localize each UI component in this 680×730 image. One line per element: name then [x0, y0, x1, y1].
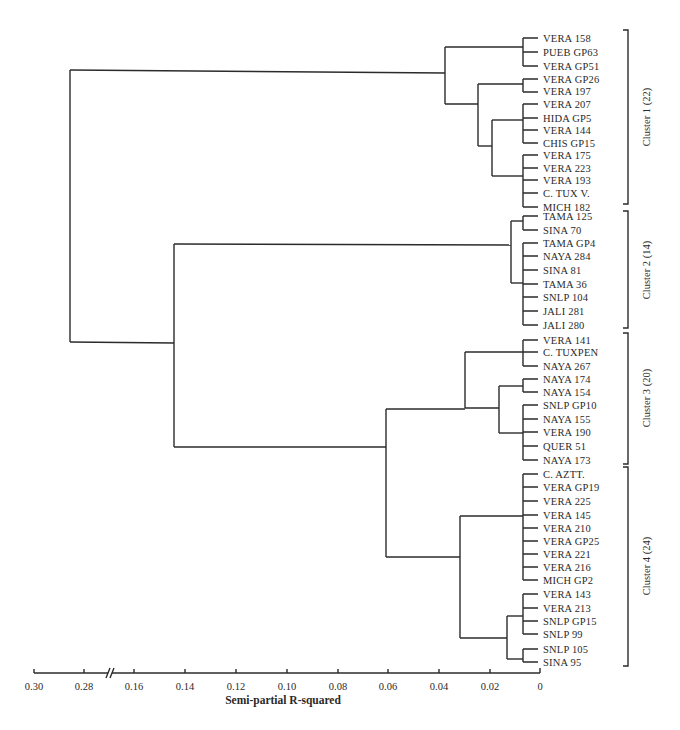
- dendrogram-chart: VERA 158 PUEB GP63 VERA GP51 VERA GP26 V…: [0, 0, 680, 730]
- leaf-label: VERA 193: [543, 175, 591, 186]
- leaf-label: TAMA GP4: [543, 238, 596, 249]
- leaf-label: VERA 216: [543, 562, 591, 573]
- c2-group-a: [523, 216, 538, 230]
- leaf-label: VERA GP51: [543, 61, 599, 72]
- leaf-label: SNLP 105: [543, 644, 588, 655]
- leaf-label: SNLP GP10: [543, 400, 597, 411]
- c2-group-b: [523, 243, 538, 325]
- cluster-2-bracket: [623, 211, 628, 328]
- leaf-label: CHIS GP15: [543, 138, 595, 149]
- leaf-label: VERA 213: [543, 603, 591, 614]
- dendrogram-tree: [70, 38, 538, 662]
- c1-group-d: [523, 155, 538, 207]
- leaf-label: VERA GP19: [543, 482, 599, 493]
- c1-group-a: [523, 38, 538, 66]
- leaf-label: NAYA 154: [543, 387, 591, 398]
- leaf-label: QUER 51: [543, 441, 586, 452]
- leaf-label: VERA 207: [543, 99, 591, 110]
- c4-group-a: [523, 474, 538, 580]
- leaf-label: VERA 175: [543, 150, 591, 161]
- leaf-label: SNLP 104: [543, 292, 589, 303]
- cluster-4-bracket: [623, 467, 628, 666]
- tick-label: 0.30: [25, 681, 43, 692]
- leaf-label: VERA 145: [543, 510, 591, 521]
- leaf-label: VERA 190: [543, 427, 591, 438]
- leaf-label: TAMA 36: [543, 279, 587, 290]
- leaf-label: NAYA 173: [543, 455, 591, 466]
- c4-group-b: [523, 594, 538, 634]
- leaf-label: MICH GP2: [543, 575, 593, 586]
- c3-group-b: [523, 379, 538, 392]
- cluster-1-label: Cluster 1 (22): [641, 87, 653, 146]
- c1-group-b: [523, 79, 538, 92]
- leaf-label: SNLP GP15: [543, 616, 597, 627]
- c2-branch: [174, 244, 511, 245]
- c3-group-a: [523, 340, 538, 366]
- leaf-label: VERA 221: [543, 549, 591, 560]
- leaf-label: SINA 95: [543, 657, 581, 668]
- leaf-label: NAYA 267: [543, 361, 591, 372]
- tick-label: 0.12: [227, 681, 245, 692]
- tick-label: 0.28: [75, 681, 93, 692]
- leaf-label: VERA 143: [543, 589, 591, 600]
- leaf-label: VERA 223: [543, 163, 591, 174]
- c1-group-c: [523, 104, 538, 143]
- cluster-4-label: Cluster 4 (24): [641, 536, 653, 595]
- leaf-label: NAYA 174: [543, 374, 591, 385]
- tick-label: 0.08: [329, 681, 347, 692]
- leaf-label: NAYA 284: [543, 251, 591, 262]
- x-axis-title: Semi-partial R-squared: [225, 694, 341, 707]
- leaf-label: HIDA GP5: [543, 113, 592, 124]
- leaf-label: SINA 70: [543, 225, 581, 236]
- tick-label: 0.04: [430, 681, 449, 692]
- leaf-label: SNLP 99: [543, 629, 583, 640]
- cluster-3-bracket: [623, 333, 628, 464]
- cluster-brackets: Cluster 1 (22) Cluster 2 (14) Cluster 3 …: [623, 30, 653, 666]
- cluster-3-label: Cluster 3 (20): [641, 368, 653, 427]
- tick-label: 0.02: [481, 681, 499, 692]
- leaf-label: JALI 280: [543, 320, 585, 331]
- tick-label: 0: [537, 681, 542, 692]
- c4-group-c: [523, 649, 538, 662]
- leaf-label: TAMA 125: [543, 211, 592, 222]
- leaf-label: VERA GP26: [543, 74, 599, 85]
- tick-label: 0.06: [379, 681, 397, 692]
- root-branch-top: [70, 70, 445, 73]
- leaf-label: VERA GP25: [543, 536, 599, 547]
- leaf-label: VERA 210: [543, 523, 591, 534]
- tick-label: 0.10: [278, 681, 296, 692]
- leaf-label: NAYA 155: [543, 414, 591, 425]
- cluster-1-bracket: [623, 30, 628, 204]
- leaf-label: VERA 144: [543, 125, 592, 136]
- leaf-label: SINA 81: [543, 265, 581, 276]
- leaf-labels: VERA 158 PUEB GP63 VERA GP51 VERA GP26 V…: [543, 33, 599, 668]
- leaf-label: PUEB GP63: [543, 47, 598, 58]
- leaf-label: VERA 225: [543, 496, 591, 507]
- cluster-2-label: Cluster 2 (14): [641, 240, 653, 299]
- x-axis: 0.30 0.28 0.16 0.14 0.12 0.10 0.08 0.06 …: [25, 668, 543, 707]
- root-branch-bottom: [70, 342, 174, 343]
- leaf-label: C. TUX V.: [543, 188, 590, 199]
- leaf-label: C. AZTT.: [543, 469, 585, 480]
- tick-label: 0.16: [125, 681, 143, 692]
- c3-group-c: [523, 405, 538, 460]
- leaf-label: VERA 197: [543, 86, 591, 97]
- leaf-label: JALI 281: [543, 306, 585, 317]
- leaf-label: VERA 158: [543, 33, 591, 44]
- leaf-label: C. TUXPEN: [543, 347, 598, 358]
- tick-label: 0.14: [176, 681, 195, 692]
- leaf-label: VERA 141: [543, 335, 591, 346]
